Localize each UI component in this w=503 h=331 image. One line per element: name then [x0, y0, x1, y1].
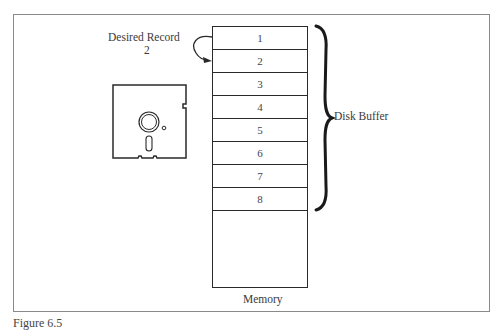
floppy-disk-icon: [113, 85, 186, 158]
curved-arrow-icon: [194, 36, 212, 63]
curly-brace-icon: [316, 26, 332, 210]
figure-caption: Figure 6.5: [13, 316, 62, 331]
